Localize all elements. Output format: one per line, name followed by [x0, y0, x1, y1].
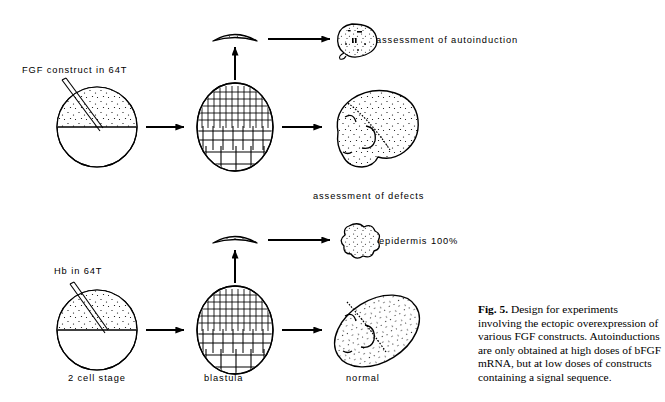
injection-label-bottom: Hb in 64T	[54, 267, 102, 276]
defects-outcome-label: assessment of defects	[313, 192, 424, 201]
autoinduction-outcome-label: assessment of autoinduction	[376, 36, 518, 45]
two-cell-egg-icon-bottom	[57, 282, 137, 370]
normal-embryo-icon	[322, 280, 433, 381]
blastula-icon-top	[197, 83, 275, 174]
autoinduction-explant-icon	[338, 24, 377, 59]
animal-cap-icon-top	[213, 35, 257, 42]
figure-caption: Fig. 5. Design for experiments involving…	[478, 303, 662, 385]
stage-label-blastula: blastula	[204, 374, 243, 383]
stage-label-two-cell: 2 cell stage	[68, 374, 126, 383]
figure-5-container: FGF construct in 64T assessment of autoi…	[0, 0, 665, 402]
epidermis-outcome-label: epidermis 100%	[379, 237, 458, 246]
figure-caption-label: Fig. 5.	[478, 303, 508, 315]
two-cell-egg-icon-top	[57, 78, 137, 167]
injection-label-top: FGF construct in 64T	[22, 66, 127, 75]
tadpole-embryo-icon-top	[337, 91, 418, 167]
animal-cap-icon-bottom	[213, 237, 257, 244]
stage-label-normal: normal	[346, 374, 380, 383]
blastula-icon-bottom	[197, 286, 275, 377]
epidermis-explant-icon	[341, 224, 379, 258]
